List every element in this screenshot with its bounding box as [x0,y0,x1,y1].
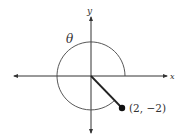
angle-label-theta: θ [66,32,74,46]
y-axis-label: y [86,6,93,16]
x-axis-label: x [170,72,175,81]
terminal-ray [91,76,122,108]
terminal-point [119,105,125,111]
terminal-point-label: (2, −2) [129,102,166,114]
diagram-canvas: y x θ (2, −2) [0,0,179,135]
